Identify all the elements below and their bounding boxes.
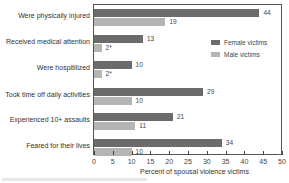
value-label: 10 — [136, 97, 143, 104]
category-label: Were physically injured — [18, 12, 90, 19]
legend-label-male: Male victims — [224, 51, 260, 58]
x-axis-label: Percent of spousal violence victims — [140, 168, 249, 175]
category-label: Feared for their lives — [26, 142, 90, 149]
x-tick — [150, 151, 151, 155]
legend: Female victims Male victims — [211, 36, 267, 60]
value-label: 11 — [139, 122, 146, 129]
x-tick-label: 35 — [222, 158, 230, 165]
value-label: 21 — [177, 113, 184, 120]
bar-male — [94, 70, 102, 78]
bar-male — [94, 122, 135, 130]
x-tick-label: 5 — [111, 158, 115, 165]
bar-female — [94, 88, 203, 96]
bar-male — [94, 44, 102, 52]
value-label: 44 — [263, 9, 270, 16]
bar-male — [94, 18, 165, 26]
x-tick-label: 0 — [92, 158, 96, 165]
bar-male — [94, 97, 132, 105]
legend-item-female: Female victims — [211, 36, 267, 48]
plot-area: Female victims Male victims 4419132*102*… — [93, 4, 282, 155]
category-label: Received medical attention — [6, 38, 90, 45]
bar-female — [94, 9, 259, 17]
x-tick-label: 50 — [278, 158, 286, 165]
category-label: Were hospitilized — [37, 64, 90, 71]
value-label: 10 — [136, 148, 143, 155]
x-tick-label: 10 — [128, 158, 136, 165]
value-label: 19 — [169, 18, 176, 25]
chart: Female victims Male victims 4419132*102*… — [0, 0, 289, 183]
x-tick-label: 25 — [184, 158, 192, 165]
x-tick — [132, 151, 133, 155]
x-tick-label: 45 — [259, 158, 267, 165]
legend-item-male: Male victims — [211, 48, 267, 60]
x-tick — [188, 151, 189, 155]
legend-swatch-female — [211, 40, 220, 45]
value-label: 2* — [106, 44, 112, 51]
x-tick — [113, 151, 114, 155]
legend-label-female: Female victims — [224, 39, 267, 46]
x-tick — [263, 151, 264, 155]
value-label: 29 — [207, 88, 214, 95]
x-tick-label: 40 — [240, 158, 248, 165]
value-label: 13 — [147, 35, 154, 42]
x-tick-label: 30 — [203, 158, 211, 165]
bar-female — [94, 35, 143, 43]
value-label: 10 — [136, 61, 143, 68]
footnote — [2, 178, 147, 181]
x-tick — [244, 151, 245, 155]
x-tick-label: 15 — [146, 158, 154, 165]
bar-female — [94, 61, 132, 69]
bar-female — [94, 113, 173, 121]
x-tick — [169, 151, 170, 155]
x-tick — [207, 151, 208, 155]
value-label: 34 — [226, 139, 233, 146]
legend-swatch-male — [211, 52, 220, 57]
category-label: Took time off daily activities — [5, 91, 90, 98]
x-tick — [94, 151, 95, 155]
x-tick — [282, 151, 283, 155]
x-tick-label: 20 — [165, 158, 173, 165]
x-tick — [226, 151, 227, 155]
bar-female — [94, 139, 222, 147]
value-label: 2* — [106, 70, 112, 77]
category-label: Experienced 10+ assaults — [10, 116, 90, 123]
